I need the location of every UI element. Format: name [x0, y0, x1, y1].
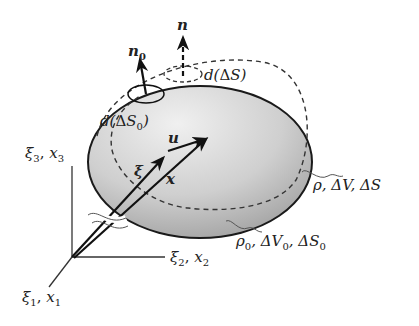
- continuum-deformation-diagram: ξ3, x3 ξ2, x2 ξ1, x1 ξ x u n0 n d(ΔS0) d…: [0, 0, 419, 326]
- vector-label-u: u: [168, 129, 179, 147]
- vector-label-xi: ξ: [134, 162, 144, 180]
- normal-label-n0: n0: [128, 42, 146, 62]
- reference-configuration-label: ρ0, ΔV0, ΔS0: [235, 232, 326, 252]
- axis-label-x3: ξ3, x3: [25, 144, 64, 164]
- surface-element-label-dS: d(ΔS): [204, 66, 247, 84]
- surface-element-current: [164, 38, 202, 82]
- normal-label-n: n: [177, 16, 188, 34]
- vector-label-x: x: [165, 170, 176, 188]
- current-configuration-label: ρ, ΔV, ΔS: [312, 176, 381, 194]
- axis-label-x1: ξ1, x1: [22, 288, 61, 308]
- axis-label-x2: ξ2, x2: [170, 248, 209, 268]
